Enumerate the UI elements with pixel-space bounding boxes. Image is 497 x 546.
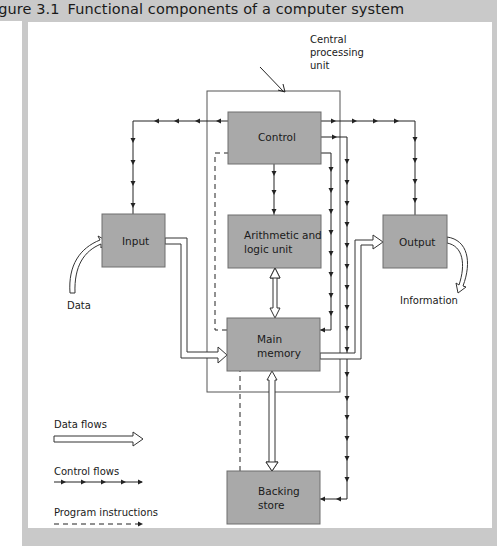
node-input: Input <box>102 214 165 267</box>
legend: Data flows Control flows Program instruc… <box>54 419 158 527</box>
cpu-label: Centralprocessingunit <box>310 34 364 71</box>
node-main-memory: Mainmemory <box>227 318 320 371</box>
svg-text:Input: Input <box>122 235 149 247</box>
node-backing-store: Backingstore <box>227 471 320 524</box>
legend-program-instruction-icon <box>54 522 143 527</box>
legend-data-flow-icon <box>54 432 143 446</box>
svg-text:Output: Output <box>399 236 435 248</box>
cpu-callout-pointer <box>260 67 284 92</box>
svg-text:Control: Control <box>258 131 296 143</box>
program-instruction-lines <box>215 153 240 471</box>
node-alu: Arithmetic andlogic unit <box>228 215 322 268</box>
legend-data-flows-label: Data flows <box>54 419 107 430</box>
legend-control-flow-icon <box>54 480 143 485</box>
data-input-label: Data <box>67 300 91 311</box>
information-output-label: Information <box>400 295 458 306</box>
node-control: Control <box>228 112 321 164</box>
node-output: Output <box>383 215 447 268</box>
legend-program-instructions-label: Program instructions <box>54 507 158 518</box>
diagram-canvas: Centralprocessingunit <box>0 0 497 546</box>
legend-control-flows-label: Control flows <box>54 466 119 477</box>
